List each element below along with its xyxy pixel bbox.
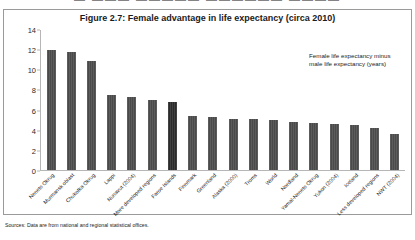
bar-series bbox=[41, 30, 405, 170]
y-axis-tick-mark bbox=[37, 30, 40, 31]
x-label-slot: Yukon (2004) bbox=[325, 171, 345, 223]
bar[interactable] bbox=[107, 95, 116, 170]
bar-slot bbox=[183, 30, 203, 170]
y-axis-tick-mark bbox=[37, 171, 40, 172]
bar[interactable] bbox=[289, 122, 298, 170]
bar-slot bbox=[223, 30, 243, 170]
figure-container: Figure 2.7: Female advantage in life exp… bbox=[3, 9, 412, 215]
y-axis-tick-mark bbox=[37, 70, 40, 71]
bar[interactable] bbox=[390, 134, 399, 170]
bar-slot bbox=[243, 30, 263, 170]
x-axis-tick-label: Troms bbox=[243, 172, 258, 187]
bar-slot bbox=[304, 30, 324, 170]
bar[interactable] bbox=[229, 119, 238, 170]
bar[interactable] bbox=[269, 120, 278, 170]
chart-title: Figure 2.7: Female advantage in life exp… bbox=[4, 13, 411, 23]
bar-slot bbox=[142, 30, 162, 170]
bar[interactable] bbox=[47, 50, 56, 170]
plot-area: 02468101214 bbox=[40, 30, 405, 171]
bar[interactable] bbox=[148, 100, 157, 170]
bar-slot bbox=[365, 30, 385, 170]
cut-off-header-text: ▬ ▬▬▬ ▬▬▬▬▬ ▬▬▬▬▬▬ ▬▬▬▬ bbox=[0, 0, 415, 9]
sources-note: Sources: Data are from national and regi… bbox=[5, 222, 149, 228]
bar-slot bbox=[263, 30, 283, 170]
x-axis-tick-label: World bbox=[264, 172, 278, 186]
bar-slot bbox=[385, 30, 405, 170]
bar[interactable] bbox=[370, 128, 379, 170]
bar-slot bbox=[61, 30, 81, 170]
bar[interactable] bbox=[67, 52, 76, 170]
bar[interactable] bbox=[249, 119, 258, 170]
bar-slot bbox=[284, 30, 304, 170]
y-axis-tick-mark bbox=[37, 150, 40, 151]
y-axis-tick-mark bbox=[37, 110, 40, 111]
y-axis-tick-mark bbox=[37, 90, 40, 91]
x-label-slot: Alaska (2000) bbox=[224, 171, 244, 223]
x-label-slot: Finnmark bbox=[183, 171, 203, 223]
x-label-slot: World bbox=[264, 171, 284, 223]
x-axis-labels: Nenets OkrugMurmansk oblastChukotka Okru… bbox=[41, 171, 406, 223]
bar-slot bbox=[344, 30, 364, 170]
bar-slot bbox=[122, 30, 142, 170]
bar-slot bbox=[162, 30, 182, 170]
bar-slot bbox=[203, 30, 223, 170]
bar[interactable] bbox=[208, 117, 217, 170]
figure-screenshot: ▬ ▬▬▬ ▬▬▬▬▬ ▬▬▬▬▬▬ ▬▬▬▬ Figure 2.7: Fema… bbox=[0, 0, 415, 240]
x-label-slot: Chukotka Okrug bbox=[82, 171, 102, 223]
bar-slot bbox=[102, 30, 122, 170]
bar[interactable] bbox=[87, 61, 96, 170]
y-axis-tick-mark bbox=[37, 50, 40, 51]
x-label-slot: NWT (2004) bbox=[386, 171, 406, 223]
bar[interactable] bbox=[309, 123, 318, 170]
x-axis-tick-label: Iceland bbox=[343, 172, 360, 189]
x-label-slot: Faroe Islands bbox=[163, 171, 183, 223]
bar[interactable] bbox=[350, 125, 359, 170]
x-label-slot: Troms bbox=[244, 171, 264, 223]
x-label-slot: Less developed regions bbox=[366, 171, 386, 223]
bar-slot bbox=[41, 30, 61, 170]
bar[interactable] bbox=[330, 124, 339, 170]
x-axis-tick-label: Lappi bbox=[103, 172, 117, 186]
bar-slot bbox=[324, 30, 344, 170]
bar[interactable] bbox=[168, 102, 177, 170]
bar[interactable] bbox=[188, 116, 197, 170]
cut-off-header-label: ▬ ▬▬▬ ▬▬▬▬▬ ▬▬▬▬▬▬ ▬▬▬▬ bbox=[74, 0, 341, 3]
bar[interactable] bbox=[127, 97, 136, 170]
bar-slot bbox=[81, 30, 101, 170]
y-axis-tick-mark bbox=[37, 130, 40, 131]
